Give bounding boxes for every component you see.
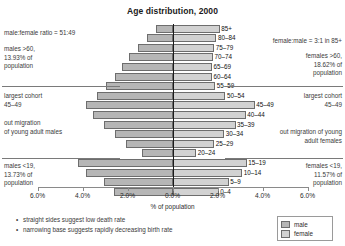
- bar-male: [142, 149, 172, 157]
- bar-male: [104, 178, 173, 186]
- bar-male: [129, 53, 173, 61]
- rule-left-over60: [2, 86, 120, 87]
- bar-female: [173, 169, 243, 177]
- bar-female: [173, 82, 216, 90]
- bar-female: [173, 73, 212, 81]
- center-axis-line: [173, 24, 174, 187]
- rule-left-under19: [2, 158, 120, 159]
- annotation-males-under-19: males <19, 13.73% of population: [4, 162, 74, 188]
- x-tick-mark: [128, 187, 129, 191]
- age-group-label: 15–19: [248, 158, 266, 168]
- bar-female: [173, 44, 215, 52]
- annotation-males-over-60: males >60, 13.93% of population: [4, 45, 74, 71]
- annotation-male-female-ratio: male:female ratio = 51:49: [4, 29, 104, 38]
- bar-male: [126, 140, 172, 148]
- legend-label-female: female: [294, 230, 313, 237]
- bar-male: [78, 159, 173, 167]
- annotation-females-over-60: females >60, 18.62% of population: [270, 52, 342, 78]
- bar-male: [97, 92, 172, 100]
- age-group-label: 10–14: [244, 168, 262, 178]
- x-tick-label: 2.0%: [111, 192, 145, 199]
- age-group-label: 60–64: [213, 72, 231, 82]
- annotation-out-migration-female: out migration of young adult females: [250, 128, 342, 145]
- age-group-label: 5–9: [230, 177, 241, 187]
- x-axis-label: % of population: [0, 203, 345, 210]
- legend-label-male: male: [294, 221, 308, 228]
- bar-female: [173, 140, 215, 148]
- x-tick-mark: [263, 187, 264, 191]
- age-group-label: 25–29: [216, 139, 234, 149]
- age-group-label: 20–24: [198, 148, 216, 158]
- age-group-label: 70–74: [215, 52, 233, 62]
- legend-swatch-male: [281, 221, 290, 229]
- age-group-label: 30–34: [226, 129, 244, 139]
- x-tick-label: 4.0%: [66, 192, 100, 199]
- bar-male: [104, 121, 173, 129]
- bar-male: [156, 25, 173, 33]
- annotation-females-under-19: females <19, 11.57% of population: [270, 162, 342, 188]
- bar-female: [173, 34, 217, 42]
- bar-female: [173, 25, 220, 33]
- bar-female: [173, 53, 214, 61]
- population-pyramid-figure: Age distribution, 2000 85+80–8475–7970–7…: [0, 0, 345, 246]
- bar-male: [86, 169, 173, 177]
- legend-item-male: male: [281, 220, 329, 230]
- age-group-label: 65–69: [213, 62, 231, 72]
- x-tick-label: 4.0%: [246, 192, 280, 199]
- bar-female: [173, 101, 255, 109]
- bar-male: [93, 111, 173, 119]
- x-tick-mark: [83, 187, 84, 191]
- bar-female: [173, 63, 212, 71]
- bar-female: [173, 92, 226, 100]
- x-tick-mark: [218, 187, 219, 191]
- chart-title: Age distribution, 2000: [0, 6, 345, 16]
- bar-male: [138, 44, 173, 52]
- legend-item-female: female: [281, 229, 329, 239]
- footnote-item: straight sides suggest low death rate: [16, 215, 246, 225]
- bar-male: [147, 34, 173, 42]
- bar-male: [86, 101, 173, 109]
- annotation-largest-cohort-male: largest cohort 45–49: [4, 92, 74, 109]
- rule-right-over60: [225, 86, 343, 87]
- bar-female: [173, 149, 197, 157]
- footnote-item: narrowing base suggests rapidly decreasi…: [16, 225, 246, 235]
- bar-female: [173, 178, 229, 186]
- bar-female: [173, 111, 246, 119]
- annotation-out-migration-male: out migration of young adult males: [4, 119, 84, 136]
- age-group-label: 40–44: [247, 110, 265, 120]
- rule-right-under19: [225, 158, 343, 159]
- annotation-female-male-85plus: female:male = 3:1 in 85+: [222, 37, 342, 46]
- age-group-label: 50–54: [227, 91, 245, 101]
- bar-female: [173, 121, 236, 129]
- footnote-list: straight sides suggest low death ratenar…: [16, 215, 246, 235]
- bar-male: [122, 63, 173, 71]
- bar-female: [173, 130, 225, 138]
- x-tick-mark: [173, 187, 174, 191]
- legend-swatch-female: [281, 230, 290, 238]
- x-tick-label: 6.0%: [21, 192, 55, 199]
- bar-male: [115, 130, 172, 138]
- x-tick-label: 0.0%: [156, 192, 190, 199]
- bar-female: [173, 159, 247, 167]
- annotation-largest-cohort-female: largest cohort 45–49: [270, 92, 342, 109]
- x-tick-label: 2.0%: [201, 192, 235, 199]
- x-tick-label: 6.0%: [291, 192, 325, 199]
- bar-male: [115, 73, 172, 81]
- age-group-label: 85+: [221, 24, 232, 34]
- chart-legend: male female: [277, 216, 333, 241]
